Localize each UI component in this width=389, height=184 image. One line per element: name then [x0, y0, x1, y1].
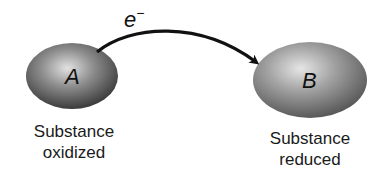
electron-transfer-arrow — [97, 31, 256, 62]
caption-a-line2: oxidized — [14, 142, 134, 163]
substance-a-symbol: A — [63, 64, 80, 89]
caption-a-line1: Substance — [14, 121, 134, 142]
substance-b-symbol: B — [302, 68, 317, 93]
substance-reduced-caption: Substance reduced — [250, 128, 370, 170]
substance-oxidized-caption: Substance oxidized — [14, 121, 134, 163]
caption-b-line2: reduced — [250, 149, 370, 170]
electron-charge: − — [136, 5, 144, 21]
caption-b-line1: Substance — [250, 128, 370, 149]
electron-label: e− — [124, 5, 144, 32]
